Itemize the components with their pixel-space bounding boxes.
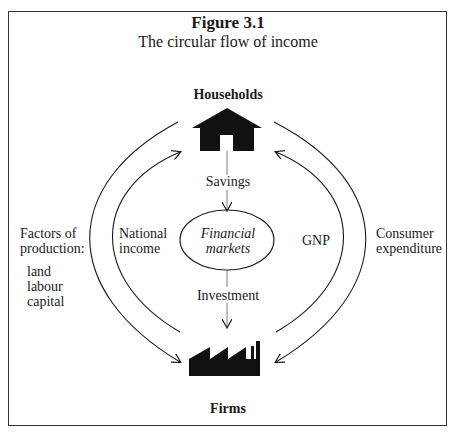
factor-item-capital: capital (27, 294, 64, 309)
households-label: Households (0, 87, 456, 103)
circular-flow-diagram (0, 0, 456, 437)
consumer-expenditure-label-line1: Consumer (376, 226, 434, 241)
gnp-label: GNP (302, 233, 330, 248)
factory-icon (189, 341, 260, 376)
investment-label: Investment (0, 288, 456, 303)
house-icon (192, 108, 262, 151)
consumer-expenditure-label-line2: expenditure (376, 241, 442, 256)
savings-label: Savings (0, 174, 456, 189)
national-income-label-line2: income (119, 241, 160, 256)
factor-item-labour: labour (27, 279, 63, 294)
factor-item-land: land (27, 264, 51, 279)
firms-label: Firms (0, 401, 456, 417)
national-income-label-line1: National (119, 226, 167, 241)
factors-of-production-label-line1: Factors of (20, 226, 76, 241)
factors-of-production-label-line2: production: (20, 241, 85, 256)
